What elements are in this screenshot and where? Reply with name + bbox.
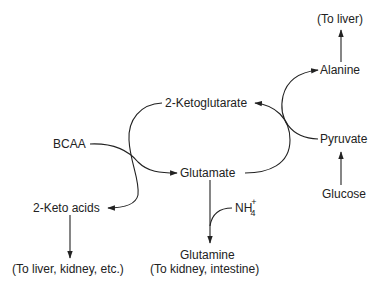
label-to-liver: (To liver)	[317, 12, 363, 26]
label-glutamate: Glutamate	[180, 166, 235, 180]
label-bcaa: BCAA	[53, 137, 86, 151]
label-2-keto-acids: 2-Keto acids	[33, 201, 100, 215]
ammonium-subscript: 4	[251, 208, 256, 218]
arrow-ketoglutarate-to-keto-acids	[108, 103, 162, 208]
label-ammonium: NH+4	[235, 201, 263, 215]
label-to-kidney-intestine: (To kidney, intestine)	[150, 262, 259, 276]
label-2-ketoglutarate: 2-Ketoglutarate	[165, 96, 247, 110]
ammonium-charge: +	[251, 197, 256, 207]
label-alanine: Alanine	[320, 63, 360, 77]
label-glutamine: Glutamine	[180, 248, 235, 262]
label-to-liver-kidney: (To liver, kidney, etc.)	[12, 262, 124, 276]
ammonium-base: NH	[235, 201, 252, 215]
label-pyruvate: Pyruvate	[320, 132, 367, 146]
arrow-glutamate-to-ketoglutarate	[245, 103, 290, 173]
label-glucose: Glucose	[322, 187, 366, 201]
ammonium-input-curve	[210, 208, 232, 226]
arrow-pyruvate-to-alanine	[282, 70, 318, 139]
arrow-bcaa-to-glutamate	[90, 144, 177, 173]
